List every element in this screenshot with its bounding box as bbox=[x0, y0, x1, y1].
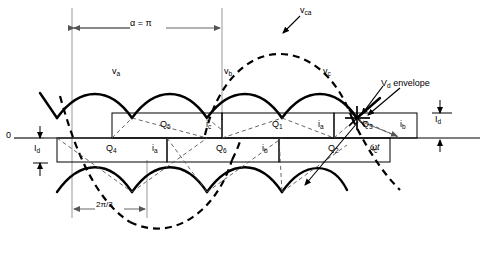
vd-envelope-pointers bbox=[362, 86, 400, 115]
q3-symbol: Q bbox=[362, 119, 369, 129]
vd-envelope-label: Vd envelope bbox=[381, 79, 430, 90]
q2-subscript: 2 bbox=[335, 147, 339, 154]
block-ic-lower-label: ic bbox=[372, 144, 377, 155]
id-left-label: Id bbox=[34, 144, 40, 155]
block-ib-lower-label: ib bbox=[262, 144, 268, 155]
q5-symbol: Q bbox=[160, 119, 167, 129]
ib-lower-subscript: b bbox=[264, 147, 268, 154]
va-label: va bbox=[112, 67, 120, 78]
ic-upper-subscript: c bbox=[208, 123, 211, 130]
block-ib-upper-label: ib bbox=[400, 120, 406, 131]
id-right-dimension bbox=[432, 100, 452, 152]
q5-subscript: 5 bbox=[167, 123, 171, 130]
figure-canvas: 0 α = π 2π/3 Id Id va vb vc vca Vd envel… bbox=[0, 0, 492, 258]
twopi3-dimension-label: 2π/3 bbox=[96, 201, 113, 209]
va-subscript: a bbox=[117, 70, 121, 77]
vca-label: vca bbox=[300, 6, 311, 17]
block-crossing-lines bbox=[57, 118, 400, 192]
vb-label: vb bbox=[224, 67, 232, 78]
id-right-label: Id bbox=[435, 115, 441, 126]
block-q3-label: Q3 bbox=[362, 120, 373, 131]
phase-voltage-upper bbox=[40, 93, 380, 118]
q2-symbol: Q bbox=[328, 143, 335, 153]
phase-voltage-lower bbox=[57, 167, 347, 192]
id-right-subscript: d bbox=[438, 118, 442, 125]
block-ic-upper-label: ic bbox=[206, 120, 211, 131]
q4-subscript: 4 bbox=[113, 147, 117, 154]
block-q4-label: Q4 bbox=[106, 144, 117, 155]
waveform-diagram bbox=[0, 0, 492, 258]
q6-symbol: Q bbox=[216, 143, 223, 153]
vb-subscript: b bbox=[229, 70, 233, 77]
ia-upper-subscript: a bbox=[320, 123, 324, 130]
vc-subscript: c bbox=[328, 70, 331, 77]
block-q6-label: Q6 bbox=[216, 144, 227, 155]
vc-label: vc bbox=[323, 67, 331, 78]
block-q1-label: Q1 bbox=[272, 120, 283, 131]
ia-lower-subscript: a bbox=[154, 147, 158, 154]
ib-upper-subscript: b bbox=[402, 123, 406, 130]
block-q2-label: Q2 bbox=[328, 144, 339, 155]
zero-label: 0 bbox=[6, 131, 11, 140]
q1-subscript: 1 bbox=[279, 123, 283, 130]
q6-subscript: 6 bbox=[223, 147, 227, 154]
vca-pointer bbox=[283, 16, 300, 33]
alpha-dimension-label: α = π bbox=[130, 19, 152, 28]
vd-envelope-word: envelope bbox=[391, 78, 430, 88]
q3-subscript: 3 bbox=[369, 123, 373, 130]
block-ia-upper-label: ia bbox=[318, 120, 324, 131]
q1-symbol: Q bbox=[272, 119, 279, 129]
block-ia-lower-label: ia bbox=[152, 144, 158, 155]
id-left-subscript: d bbox=[37, 147, 41, 154]
ic-lower-subscript: c bbox=[374, 147, 377, 154]
q4-symbol: Q bbox=[106, 143, 113, 153]
block-q5-label: Q5 bbox=[160, 120, 171, 131]
vca-subscript: ca bbox=[305, 9, 312, 16]
